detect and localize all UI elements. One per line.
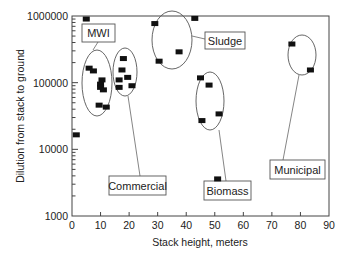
- cluster-label: Municipal: [274, 164, 320, 176]
- x-tick-label: 10: [95, 219, 107, 231]
- cluster-label: Sludge: [208, 35, 242, 47]
- data-point-marker: [156, 59, 163, 64]
- x-tick-label: 90: [323, 219, 335, 231]
- data-point-marker: [83, 17, 90, 22]
- data-point-marker: [307, 67, 314, 72]
- data-point-marker: [214, 176, 221, 181]
- data-point-marker: [116, 77, 123, 82]
- cluster-label: Biomass: [206, 185, 249, 197]
- y-tick-label: 10000: [39, 143, 68, 155]
- data-point-marker: [206, 83, 213, 88]
- leader-line: [192, 36, 205, 39]
- leader-line: [219, 130, 226, 181]
- x-tick-label: 30: [152, 219, 164, 231]
- cluster-label: MWI: [87, 27, 110, 39]
- cluster-annotations: MWICommercialSludgeBiomassMunicipal: [82, 11, 325, 200]
- data-point-marker: [90, 68, 97, 73]
- x-tick-label: 60: [237, 219, 249, 231]
- x-tick-label: 70: [266, 219, 278, 231]
- data-point-marker: [151, 21, 158, 26]
- data-point-marker: [198, 118, 205, 123]
- data-point-marker: [116, 85, 123, 90]
- data-point-marker: [128, 83, 135, 88]
- x-tick-label: 20: [123, 219, 135, 231]
- x-axis-label: Stack height, meters: [152, 236, 248, 248]
- data-point-marker: [73, 132, 80, 137]
- cluster-label: Commercial: [108, 180, 167, 192]
- leader-line: [93, 42, 98, 50]
- x-tick-label: 80: [295, 219, 307, 231]
- leader-line: [283, 75, 299, 160]
- scatter-chart: 0102030405060708090100010000100000100000…: [0, 0, 343, 256]
- y-tick-label: 1000000: [27, 10, 68, 22]
- data-point-marker: [216, 111, 223, 116]
- y-tick-label: 1000: [45, 210, 69, 222]
- data-point-marker: [176, 49, 183, 54]
- y-tick-label: 100000: [33, 77, 68, 89]
- data-point-marker: [197, 75, 204, 80]
- y-axis-label: Dilution from stack to ground: [14, 49, 26, 183]
- x-tick-label: 0: [69, 219, 75, 231]
- data-point-marker: [124, 75, 131, 80]
- data-point-marker: [288, 42, 295, 47]
- x-tick-label: 40: [180, 219, 192, 231]
- leader-line: [128, 96, 140, 176]
- data-point-marker: [120, 56, 127, 61]
- data-point-marker: [96, 103, 103, 108]
- data-point-marker: [118, 67, 125, 72]
- data-point-marker: [103, 105, 110, 110]
- x-tick-label: 50: [209, 219, 221, 231]
- data-point-marker: [100, 87, 107, 92]
- data-point-marker: [191, 16, 198, 21]
